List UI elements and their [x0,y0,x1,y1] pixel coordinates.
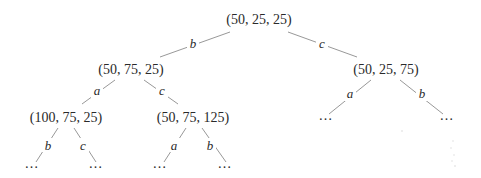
edge-label-a: a [94,83,101,98]
edge-label-c: c [319,36,325,51]
node-100-75-25: (100, 75, 25) [30,110,103,126]
edge-c-a: a [329,80,371,114]
scan-artifacts [401,130,456,167]
edge-b-a: a [82,80,115,104]
edge-b-c: c [144,80,178,104]
node-50-25-75: (50, 25, 75) [353,62,419,78]
leaf-ellipsis: … [440,108,455,123]
edge-root-c: c [288,32,357,57]
leaf-ellipsis: … [89,156,104,171]
edge-label-c: c [80,138,86,153]
edge-label-b: b [190,36,197,51]
node-50-75-25: (50, 75, 25) [98,62,164,78]
edge-label-b: b [419,86,426,101]
leaf-ellipsis: … [319,108,334,123]
edge-label-a: a [171,138,178,153]
node-root: (50, 25, 25) [226,12,292,28]
tree-diagram: b c a c a b b c a [0,0,481,178]
node-50-75-125: (50, 75, 125) [157,110,230,126]
leaf-ellipsis: … [218,156,233,171]
edge-label-b: b [207,138,214,153]
edge-c-b: b [400,80,443,114]
edge-label-a: a [347,86,354,101]
edge-label-b: b [45,138,52,153]
edge-root-b: b [160,32,230,57]
leaf-ellipsis: … [153,156,168,171]
edge-label-c: c [159,83,165,98]
leaf-ellipsis: … [25,156,40,171]
